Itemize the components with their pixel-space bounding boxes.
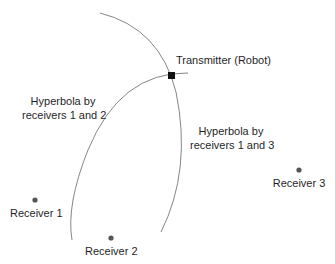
transmitter-marker [168, 72, 175, 79]
receiver-2-dot [108, 235, 113, 240]
transmitter-label: Transmitter (Robot) [176, 53, 271, 67]
receiver-1-dot [32, 197, 37, 202]
hyperbola-1-2-label-line2: receivers 1 and 2 [22, 108, 104, 122]
receiver-3-dot [296, 167, 301, 172]
diagram-graphics [0, 0, 335, 264]
receiver-1-label: Receiver 1 [10, 206, 62, 220]
receiver-2-label: Receiver 2 [85, 244, 137, 258]
hyperbola-1-3-label: Hyperbola by receivers 1 and 3 [190, 124, 272, 152]
receiver-3-label: Receiver 3 [272, 176, 326, 190]
hyperbola-1-2-label: Hyperbola by receivers 1 and 2 [22, 94, 104, 122]
hyperbola-receivers-1-3 [100, 13, 181, 232]
trilateration-diagram: Transmitter (Robot) Hyperbola by receive… [0, 0, 335, 264]
hyperbola-1-2-label-line1: Hyperbola by [22, 94, 104, 108]
hyperbola-1-3-label-line2: receivers 1 and 3 [190, 138, 272, 152]
hyperbola-1-3-label-line1: Hyperbola by [190, 124, 272, 138]
